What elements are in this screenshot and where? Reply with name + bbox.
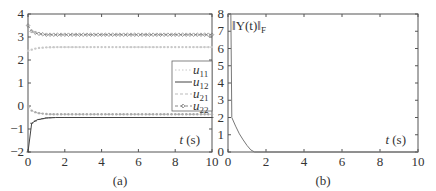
panel-b: 0246810012345678t (s)(b)‖Y(t)‖F: [218, 6, 425, 188]
x-axis-label: t (s): [179, 132, 200, 147]
figure: 0246810−2−101234t (s)(a)u11u12u21u220246…: [0, 0, 436, 191]
y-tick-label: 2: [18, 52, 25, 67]
panel-a: 0246810−2−101234t (s)(a)u11u12u21u22: [10, 6, 218, 188]
y-tick-label: 0: [18, 98, 25, 113]
panel-caption: (b): [315, 173, 330, 188]
y-tick-label: 7: [218, 23, 225, 38]
y-tick-label: 4: [18, 6, 25, 21]
x-tick-label: 2: [263, 154, 270, 169]
norm-annotation: ‖Y(t)‖F: [232, 18, 266, 35]
x-tick-label: 8: [377, 154, 384, 169]
legend: u11u12u21u22: [172, 61, 212, 115]
y-tick-label: 1: [18, 75, 25, 90]
panel-caption: (a): [113, 173, 127, 188]
x-tick-label: 10: [412, 154, 425, 169]
y-tick-label: 0: [218, 144, 225, 159]
x-tick-label: 6: [135, 154, 142, 169]
x-tick-label: 8: [172, 154, 179, 169]
x-tick-label: 4: [98, 154, 105, 169]
y-tick-label: 8: [218, 6, 225, 21]
x-tick-label: 0: [25, 154, 32, 169]
x-tick-label: 4: [301, 154, 308, 169]
y-tick-label: −1: [10, 121, 24, 136]
y-tick-label: 5: [218, 58, 225, 73]
x-tick-label: 2: [62, 154, 69, 169]
x-axis-label: t (s): [385, 132, 406, 147]
y-tick-label: 1: [218, 127, 225, 142]
y-tick-label: 3: [18, 29, 25, 44]
x-tick-label: 0: [225, 154, 232, 169]
y-tick-label: 3: [218, 92, 225, 107]
y-tick-label: 6: [218, 41, 225, 56]
y-tick-label: 2: [218, 110, 225, 125]
y-tick-label: −2: [10, 144, 24, 159]
y-tick-label: 4: [218, 75, 225, 90]
x-tick-label: 6: [339, 154, 346, 169]
